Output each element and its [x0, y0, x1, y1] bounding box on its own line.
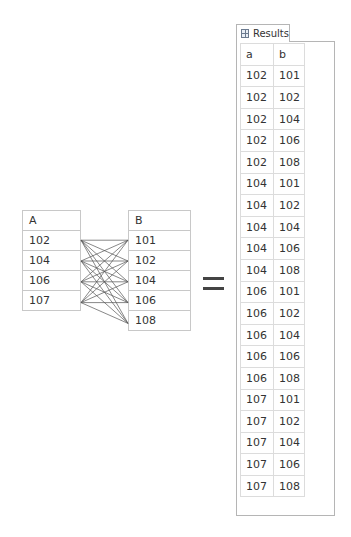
results-row[interactable]: 107106 — [241, 454, 305, 476]
equals-sign-bottom-bar — [203, 287, 224, 290]
results-cell[interactable]: 102 — [241, 65, 274, 87]
results-row[interactable]: 102108 — [241, 151, 305, 173]
results-row[interactable]: 106101 — [241, 281, 305, 303]
results-cell[interactable]: 102 — [274, 303, 305, 325]
results-row[interactable]: 102101 — [241, 65, 305, 87]
results-cell[interactable]: 106 — [274, 346, 305, 368]
results-cell[interactable]: 104 — [274, 432, 305, 454]
grid-icon — [241, 29, 249, 38]
results-cell[interactable]: 108 — [274, 259, 305, 281]
results-row[interactable]: 104102 — [241, 195, 305, 217]
results-cell[interactable]: 107 — [241, 411, 274, 433]
results-cell[interactable]: 106 — [241, 303, 274, 325]
results-row[interactable]: 106106 — [241, 346, 305, 368]
results-cell[interactable]: 104 — [241, 238, 274, 260]
results-column-header-b[interactable]: b — [274, 44, 305, 66]
results-row[interactable]: 104108 — [241, 259, 305, 281]
results-tab-label: Results — [253, 28, 289, 39]
results-grid: ab10210110210210210410210610210810410110… — [240, 43, 305, 497]
results-cell[interactable]: 106 — [274, 238, 305, 260]
equals-sign-top-bar — [203, 277, 224, 280]
results-row[interactable]: 106102 — [241, 303, 305, 325]
results-row[interactable]: 104101 — [241, 173, 305, 195]
results-cell[interactable]: 102 — [274, 411, 305, 433]
results-cell[interactable]: 102 — [274, 87, 305, 109]
results-cell[interactable]: 101 — [274, 389, 305, 411]
results-row[interactable]: 106104 — [241, 324, 305, 346]
results-row[interactable]: 107108 — [241, 475, 305, 497]
results-cell[interactable]: 101 — [274, 65, 305, 87]
results-cell[interactable]: 104 — [241, 216, 274, 238]
results-cell[interactable]: 102 — [274, 195, 305, 217]
results-row[interactable]: 102102 — [241, 87, 305, 109]
results-row[interactable]: 102106 — [241, 130, 305, 152]
results-cell[interactable]: 102 — [241, 108, 274, 130]
results-cell[interactable]: 108 — [274, 475, 305, 497]
results-cell[interactable]: 104 — [274, 108, 305, 130]
results-cell[interactable]: 106 — [274, 130, 305, 152]
results-cell[interactable]: 108 — [274, 151, 305, 173]
results-cell[interactable]: 107 — [241, 475, 274, 497]
results-cell[interactable]: 107 — [241, 389, 274, 411]
results-cell[interactable]: 102 — [241, 130, 274, 152]
results-cell[interactable]: 104 — [241, 259, 274, 281]
results-cell[interactable]: 107 — [241, 454, 274, 476]
results-cell[interactable]: 102 — [241, 87, 274, 109]
results-column-header-a[interactable]: a — [241, 44, 274, 66]
results-cell[interactable]: 101 — [274, 173, 305, 195]
results-row[interactable]: 106108 — [241, 367, 305, 389]
results-cell[interactable]: 104 — [274, 324, 305, 346]
results-row[interactable]: 107104 — [241, 432, 305, 454]
results-row[interactable]: 104104 — [241, 216, 305, 238]
results-cell[interactable]: 106 — [241, 281, 274, 303]
results-row[interactable]: 104106 — [241, 238, 305, 260]
results-header-row: ab — [241, 44, 305, 66]
results-cell[interactable]: 102 — [241, 151, 274, 173]
results-tab[interactable]: Results — [236, 24, 290, 42]
results-cell[interactable]: 106 — [274, 454, 305, 476]
results-row[interactable]: 107102 — [241, 411, 305, 433]
results-cell[interactable]: 104 — [241, 173, 274, 195]
results-cell[interactable]: 104 — [274, 216, 305, 238]
results-cell[interactable]: 106 — [241, 324, 274, 346]
results-cell[interactable]: 104 — [241, 195, 274, 217]
results-cell[interactable]: 106 — [241, 346, 274, 368]
results-row[interactable]: 107101 — [241, 389, 305, 411]
results-cell[interactable]: 107 — [241, 432, 274, 454]
results-cell[interactable]: 101 — [274, 281, 305, 303]
results-row[interactable]: 102104 — [241, 108, 305, 130]
results-cell[interactable]: 106 — [241, 367, 274, 389]
results-cell[interactable]: 108 — [274, 367, 305, 389]
